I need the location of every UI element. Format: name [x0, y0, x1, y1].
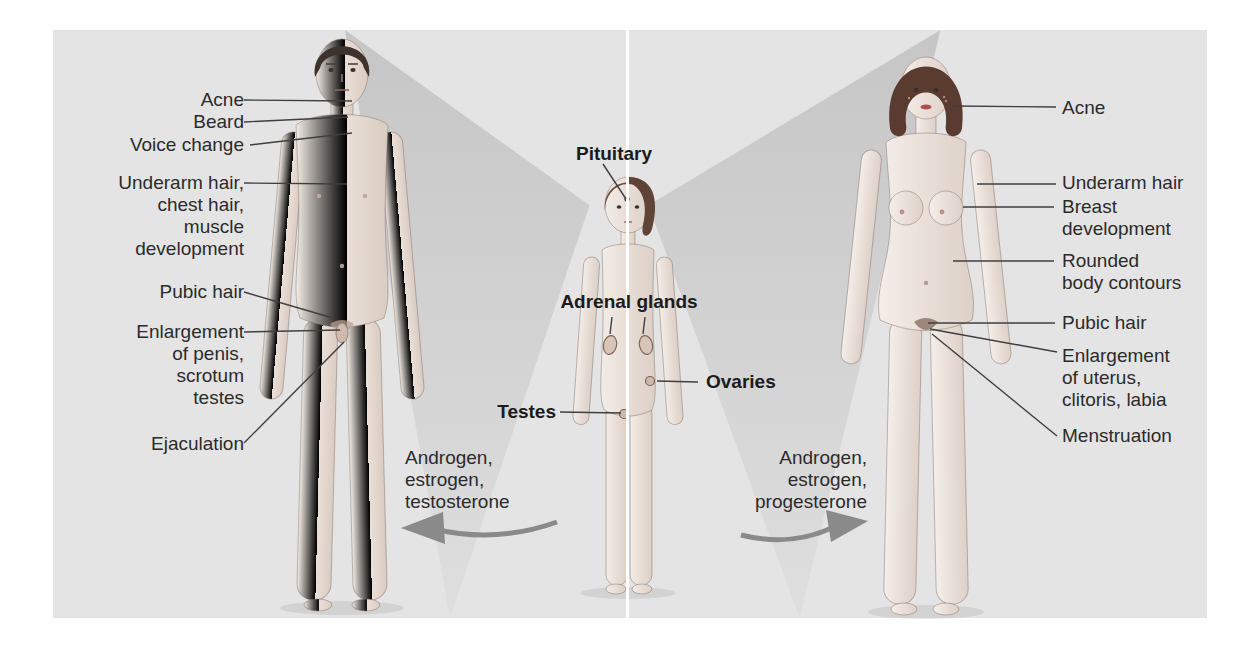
label-voice-change: Voice change [57, 134, 244, 156]
adult-female-figure [836, 40, 1016, 620]
label-rounded-contours: Rounded body contours [1062, 250, 1232, 294]
label-menstruation: Menstruation [1062, 425, 1232, 447]
label-hormones-male: Androgen, estrogen, testosterone [405, 447, 540, 513]
label-pubic-hair-male: Pubic hair [57, 281, 244, 303]
label-breast-development: Breast development [1062, 196, 1232, 240]
label-enlargement-female: Enlargement of uterus, clitoris, labia [1062, 345, 1232, 411]
puberty-hormones-diagram: Acne Beard Voice change Underarm hair, c… [0, 0, 1256, 645]
label-enlargement-male: Enlargement of penis, scrotum testes [57, 321, 244, 409]
label-underarm-chest-muscle: Underarm hair, chest hair, muscle develo… [57, 172, 244, 260]
adult-male-figure [252, 28, 432, 618]
ovary [646, 377, 655, 386]
center-divider-line [626, 30, 629, 618]
label-pubic-hair-female: Pubic hair [1062, 312, 1232, 334]
label-ovaries: Ovaries [706, 371, 816, 393]
label-acne-male: Acne [57, 89, 244, 111]
label-testes: Testes [476, 401, 556, 423]
label-adrenal-glands: Adrenal glands [553, 291, 705, 313]
label-ejaculation: Ejaculation [57, 433, 244, 455]
label-pituitary: Pituitary [558, 143, 670, 165]
label-hormones-female: Androgen, estrogen, progesterone [737, 447, 867, 513]
label-acne-female: Acne [1062, 97, 1232, 119]
label-underarm-female: Underarm hair [1062, 172, 1232, 194]
male-genitals [336, 323, 348, 343]
label-beard: Beard [57, 111, 244, 133]
